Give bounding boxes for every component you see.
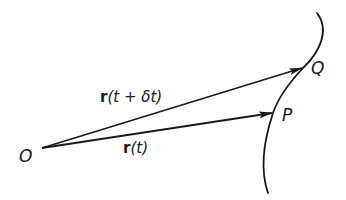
vector-argument: (t) — [130, 139, 148, 157]
vector-argument: (t + δt) — [107, 88, 162, 106]
diagram-svg — [0, 0, 346, 200]
vector-r-t-label: r(t) — [123, 141, 148, 156]
point-q-label: Q — [311, 60, 324, 77]
vector-r-t-plus-dt-label: r(t + δt) — [100, 90, 162, 105]
point-p-label: P — [282, 107, 292, 124]
origin-label: O — [19, 148, 32, 165]
vector-r-t — [42, 113, 272, 148]
trajectory-curve — [264, 13, 323, 193]
diagram-canvas: O P Q r(t + δt) r(t) — [0, 0, 346, 200]
vector-r-t-plus-dt — [42, 68, 302, 148]
